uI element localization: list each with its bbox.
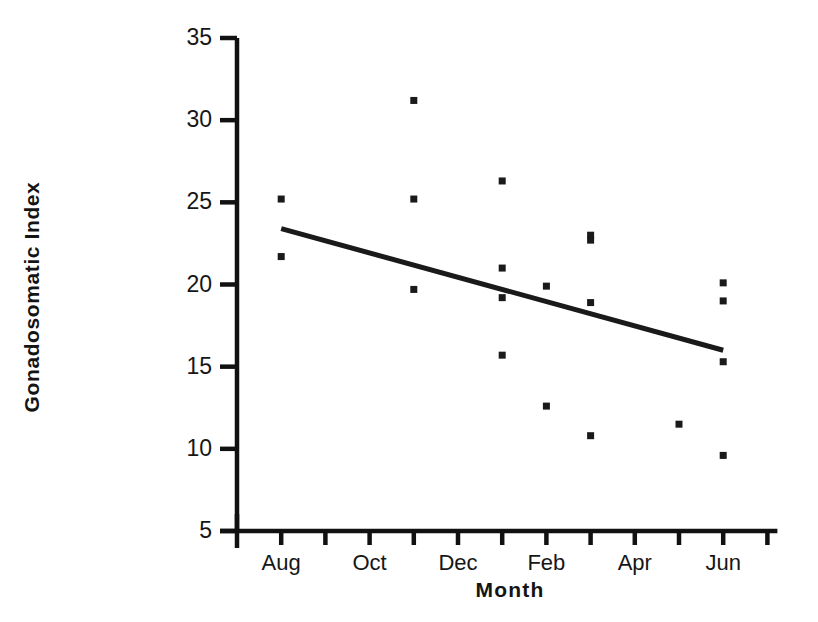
plot-area — [0, 0, 818, 622]
axis-ticks — [220, 38, 767, 548]
axes — [220, 38, 777, 531]
data-points — [278, 97, 727, 459]
data-point — [410, 286, 417, 293]
trend-line — [281, 229, 723, 351]
data-point — [499, 265, 506, 272]
data-point — [720, 297, 727, 304]
data-point — [720, 358, 727, 365]
data-point — [676, 421, 683, 428]
data-point — [278, 253, 285, 260]
data-point — [720, 279, 727, 286]
data-point — [499, 177, 506, 184]
chart-figure: Gonadosomatic Index Month 5101520253035 … — [0, 0, 818, 622]
data-point — [410, 97, 417, 104]
data-point — [499, 352, 506, 359]
data-point — [587, 432, 594, 439]
data-point — [410, 196, 417, 203]
data-point — [720, 452, 727, 459]
data-point — [587, 299, 594, 306]
data-point — [587, 237, 594, 244]
data-point — [543, 403, 550, 410]
regression-line — [281, 229, 723, 351]
data-point — [499, 294, 506, 301]
data-point — [278, 196, 285, 203]
data-point — [543, 283, 550, 290]
